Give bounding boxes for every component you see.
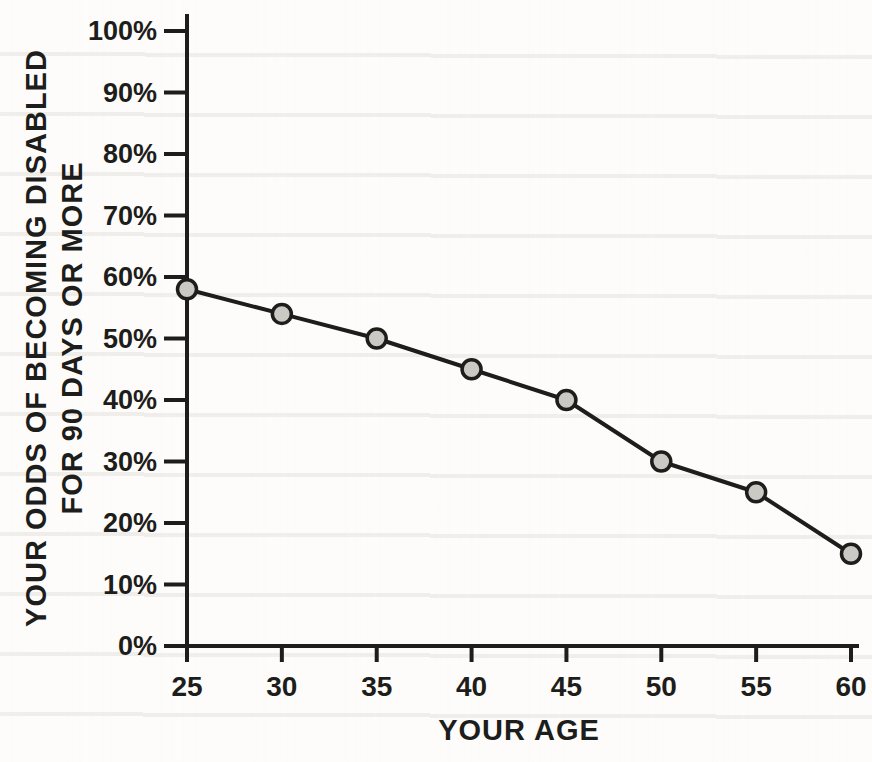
x-tick-label: 45 xyxy=(551,671,582,702)
y-tick-label: 50% xyxy=(103,324,157,354)
y-axis-title: YOUR ODDS OF BECOMING DISABLED FOR 90 DA… xyxy=(18,49,90,627)
data-point-age-40 xyxy=(462,360,481,379)
y-tick-label: 70% xyxy=(103,201,157,231)
x-tick-label: 60 xyxy=(835,671,866,702)
x-tick-label: 40 xyxy=(456,671,487,702)
x-tick-label: 55 xyxy=(741,671,772,702)
data-point-age-30 xyxy=(272,304,291,323)
data-point-age-50 xyxy=(652,452,671,471)
disability-odds-line-chart: 0%10%20%30%40%50%60%70%80%90%100%2530354… xyxy=(0,0,872,762)
y-tick-label: 20% xyxy=(103,508,157,538)
x-tick-label: 30 xyxy=(266,671,297,702)
x-tick-label: 35 xyxy=(361,671,392,702)
y-tick-label: 40% xyxy=(103,385,157,415)
x-tick-label: 25 xyxy=(171,671,202,702)
y-tick-label: 80% xyxy=(103,139,157,169)
x-tick-label: 50 xyxy=(646,671,677,702)
y-tick-label: 30% xyxy=(103,447,157,477)
y-tick-label: 90% xyxy=(103,78,157,108)
data-point-age-35 xyxy=(367,329,386,348)
data-point-age-60 xyxy=(842,544,861,563)
y-tick-label: 100% xyxy=(88,16,157,46)
y-axis-title-line2: FOR 90 DAYS OR MORE xyxy=(54,49,90,627)
y-tick-label: 10% xyxy=(103,570,157,600)
y-axis-title-line1: YOUR ODDS OF BECOMING DISABLED xyxy=(18,49,54,627)
x-axis-title: YOUR AGE xyxy=(187,714,851,747)
data-line xyxy=(187,289,851,553)
data-point-age-45 xyxy=(557,391,576,410)
scanned-book-page: 0%10%20%30%40%50%60%70%80%90%100%2530354… xyxy=(0,0,872,762)
y-tick-label: 0% xyxy=(118,631,157,661)
data-point-age-25 xyxy=(178,280,197,299)
data-point-age-55 xyxy=(747,483,766,502)
y-tick-label: 60% xyxy=(103,262,157,292)
